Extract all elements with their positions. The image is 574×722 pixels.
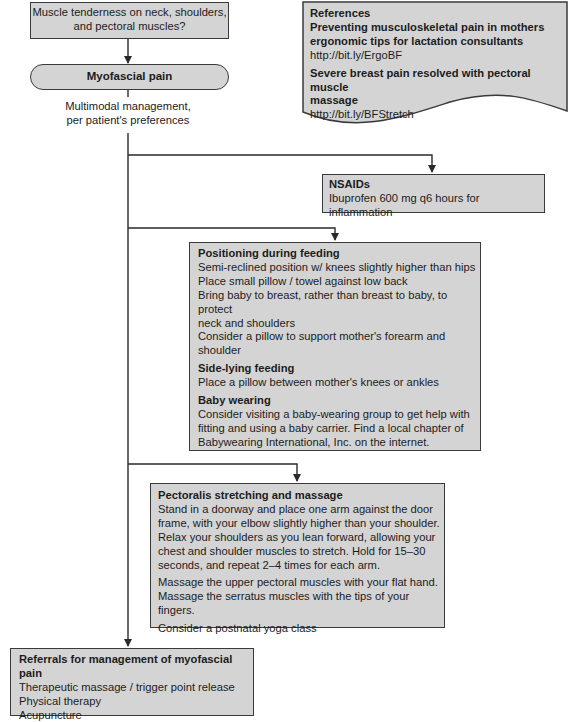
pectoralis-p3-line-1: Consider a postnatal yoga class: [158, 622, 444, 636]
referrals-line-3: Acupuncture: [19, 709, 253, 722]
reference-1-title-line-2: ergonomic tips for lactation consultants: [310, 35, 565, 49]
question-box: Muscle tenderness on neck, shoulders, an…: [30, 2, 229, 39]
positioning-section-3-line-3: Babywearing International, Inc. on the i…: [198, 436, 480, 450]
management-note-line-1: Multimodal management,: [40, 99, 216, 113]
pectoralis-p1-line-4: chest and shoulder muscles to stretch. H…: [158, 545, 444, 559]
positioning-section-1-line-2: Place small pillow / towel against low b…: [198, 275, 480, 289]
referrals-line-1: Therapeutic massage / trigger point rele…: [19, 681, 253, 695]
positioning-section-1-line-4: neck and shoulders: [198, 317, 480, 331]
references-title: References: [310, 7, 565, 21]
pectoralis-p1-line-2: frame, with your elbow slightly higher t…: [158, 517, 444, 531]
question-line-1: Muscle tenderness on neck, shoulders,: [31, 6, 228, 20]
pectoralis-p1-line-3: Relax your shoulders as you lean forward…: [158, 531, 444, 545]
positioning-section-2-title: Side-lying feeding: [198, 362, 480, 376]
positioning-section-3-title: Baby wearing: [198, 394, 480, 408]
pectoralis-p1-line-1: Stand in a doorway and place one arm aga…: [158, 503, 444, 517]
reference-1-link[interactable]: http://bit.ly/ErgoBF: [310, 49, 565, 63]
nsaids-box: NSAIDs Ibuprofen 600 mg q6 hours for inf…: [322, 174, 545, 213]
pectoralis-p2-line-1: Massage the upper pectoral muscles with …: [158, 576, 444, 590]
positioning-section-1-title: Positioning during feeding: [198, 247, 480, 261]
management-note-line-2: per patient's preferences: [40, 113, 216, 127]
nsaids-line-1: Ibuprofen 600 mg q6 hours for inflammati…: [329, 192, 544, 220]
pectoralis-title: Pectoralis stretching and massage: [158, 489, 444, 503]
positioning-section-1-line-5: Consider a pillow to support mother's fo…: [198, 330, 480, 344]
pectoralis-p2-line-2: Massage the serratus muscles with the ti…: [158, 590, 444, 618]
positioning-section-1-line-6: shoulder: [198, 344, 480, 358]
reference-1-title-line-1: Preventing musculoskeletal pain in mothe…: [310, 21, 565, 35]
referrals-title: Referrals for management of myofascial p…: [19, 653, 253, 681]
referrals-box: Referrals for management of myofascial p…: [10, 648, 254, 716]
pectoralis-box: Pectoralis stretching and massage Stand …: [150, 483, 445, 628]
positioning-box: Positioning during feeding Semi-reclined…: [189, 242, 481, 451]
references-panel: References Preventing musculoskeletal pa…: [310, 7, 565, 122]
pectoralis-p1-line-5: seconds, and repeat 2–4 times for each a…: [158, 559, 444, 573]
management-note: Multimodal management, per patient's pre…: [40, 99, 216, 127]
diagnosis-pill: Myofascial pain: [30, 64, 229, 90]
nsaids-title: NSAIDs: [329, 178, 544, 192]
positioning-section-2-line-1: Place a pillow between mother's knees or…: [198, 376, 480, 390]
diagnosis-label: Myofascial pain: [87, 70, 173, 82]
reference-2-title-line-2: massage: [310, 94, 565, 108]
question-line-2: and pectoral muscles?: [31, 20, 228, 34]
positioning-section-3-line-1: Consider visiting a baby-wearing group t…: [198, 408, 480, 422]
reference-2-link[interactable]: http://bit.ly/BFStretch: [310, 108, 565, 122]
positioning-section-1-line-1: Semi-reclined position w/ knees slightly…: [198, 261, 480, 275]
positioning-section-1-line-3: Bring baby to breast, rather than breast…: [198, 289, 480, 317]
referrals-line-2: Physical therapy: [19, 695, 253, 709]
reference-2-title-line-1: Severe breast pain resolved with pectora…: [310, 67, 565, 95]
positioning-section-3-line-2: fitting and using a baby carrier. Find a…: [198, 422, 480, 436]
